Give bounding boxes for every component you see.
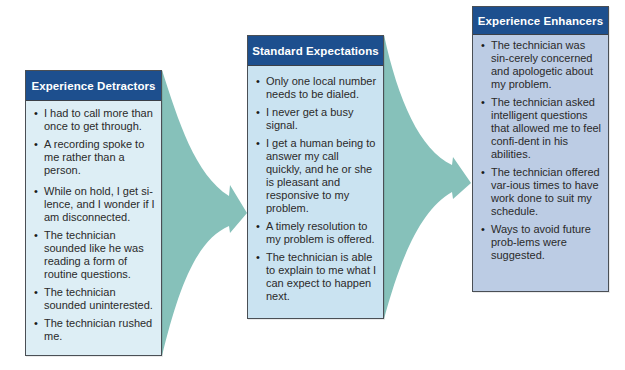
- list-item: •The technician asked intelligent questi…: [480, 96, 602, 161]
- panel-body: •Only one local number needs to be diale…: [248, 66, 383, 303]
- bullet-icon: •: [34, 107, 38, 120]
- list-item: •A timely resolution to my problem is of…: [255, 220, 377, 246]
- funnel-arrow-detractors-to-standard: [162, 70, 247, 356]
- list-item: •While on hold, I get si-lence, and I wo…: [33, 185, 155, 224]
- bullet-icon: •: [256, 75, 260, 88]
- panel-body: •I had to call more than once to get thr…: [26, 101, 161, 343]
- bullet-icon: •: [256, 251, 260, 264]
- list-item: •The technician offered var-ious times t…: [480, 166, 602, 218]
- list-item: •I never get a busy signal.: [255, 106, 377, 132]
- detractors-list: •I had to call more than once to get thr…: [33, 107, 155, 343]
- panel-title: Experience Enhancers: [473, 7, 608, 35]
- experience-enhancers-panel: Experience Enhancers •The technician was…: [472, 6, 609, 292]
- standard-list: •Only one local number needs to be diale…: [255, 75, 377, 303]
- funnel-arrow-standard-to-enhancers: [384, 35, 471, 319]
- bullet-icon: •: [34, 286, 38, 299]
- list-item: •The technician is able to explain to me…: [255, 251, 377, 303]
- bullet-icon: •: [481, 39, 485, 52]
- list-item: •The technician sounded like he was read…: [33, 229, 155, 281]
- enhancers-list: •The technician was sin-cerely concerned…: [480, 39, 602, 262]
- bullet-icon: •: [481, 223, 485, 236]
- list-item: •The technician sounded uninterested.: [33, 286, 155, 312]
- list-item: •A recording spoke to me rather than a p…: [33, 138, 155, 177]
- panel-title: Experience Detractors: [26, 71, 161, 101]
- list-item: •I get a human being to answer my call q…: [255, 137, 377, 215]
- experience-detractors-panel: Experience Detractors •I had to call mor…: [25, 70, 162, 356]
- standard-expectations-panel: Standard Expectations •Only one local nu…: [247, 35, 384, 319]
- bullet-icon: •: [34, 138, 38, 151]
- list-item: •I had to call more than once to get thr…: [33, 107, 155, 133]
- list-item: •The technician rushed me.: [33, 317, 155, 343]
- bullet-icon: •: [34, 229, 38, 242]
- bullet-icon: •: [256, 137, 260, 150]
- bullet-icon: •: [34, 317, 38, 330]
- bullet-icon: •: [256, 220, 260, 233]
- list-item: •The technician was sin-cerely concerned…: [480, 39, 602, 91]
- panel-body: •The technician was sin-cerely concerned…: [473, 35, 608, 262]
- bullet-icon: •: [256, 106, 260, 119]
- list-item: •Ways to avoid future prob-lems were sug…: [480, 223, 602, 262]
- list-item: •Only one local number needs to be diale…: [255, 75, 377, 101]
- bullet-icon: •: [34, 185, 38, 198]
- bullet-icon: •: [481, 166, 485, 179]
- panel-title: Standard Expectations: [248, 36, 383, 66]
- bullet-icon: •: [481, 96, 485, 109]
